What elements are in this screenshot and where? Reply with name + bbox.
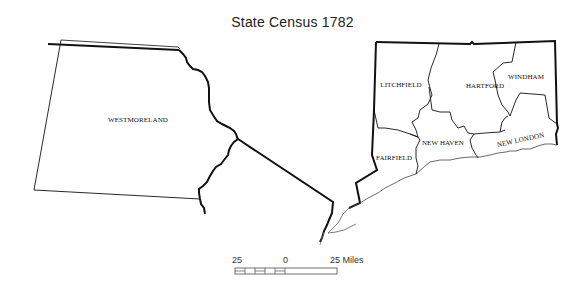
label-fairfield: FAIRFIELD (376, 154, 412, 162)
scale-mid-label: 0 (283, 255, 288, 265)
fairfield-county[interactable]: FAIRFIELD (376, 134, 420, 174)
label-westmoreland: WESTMORELAND (108, 116, 168, 124)
scale-right-label: 25 Miles (330, 255, 364, 265)
label-hartford: HARTFORD (466, 82, 504, 90)
map-canvas: WESTMORELAND LITCHFIELD HARTFORD WINDHAM (0, 0, 585, 293)
label-litchfield: LITCHFIELD (380, 81, 421, 89)
scale-bar (235, 268, 337, 274)
new-haven-county[interactable]: NEW HAVEN (422, 134, 478, 158)
connecticut-state: LITCHFIELD HARTFORD WINDHAM FAIRFIELD NE… (328, 41, 558, 233)
westmoreland-region[interactable]: WESTMORELAND (34, 40, 333, 245)
label-new-haven: NEW HAVEN (422, 139, 464, 147)
hartford-county[interactable]: HARTFORD (429, 82, 508, 134)
scale-left-label: 25 (232, 255, 242, 265)
label-windham: WINDHAM (508, 73, 545, 81)
